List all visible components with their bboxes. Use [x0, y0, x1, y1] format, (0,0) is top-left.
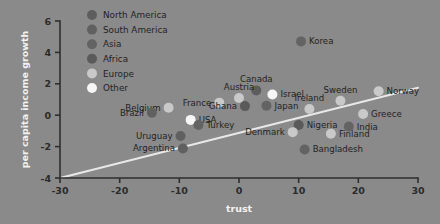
legend-swatch[interactable]	[87, 39, 97, 49]
legend-item[interactable]: Africa	[87, 54, 128, 64]
data-point[interactable]: Sweden	[323, 85, 357, 106]
data-point-marker[interactable]	[267, 89, 277, 99]
data-point-marker[interactable]	[300, 144, 310, 154]
data-point[interactable]: Uruguay	[136, 131, 186, 141]
x-tick-label: -20	[111, 185, 129, 196]
data-point[interactable]: Argentina	[133, 143, 188, 153]
data-point-marker[interactable]	[304, 104, 314, 114]
y-axis-title: per capita income growth	[19, 31, 30, 169]
data-point-marker[interactable]	[326, 129, 336, 139]
data-point-marker[interactable]	[296, 36, 306, 46]
data-point-marker[interactable]	[261, 101, 271, 111]
data-point-marker[interactable]	[164, 103, 174, 113]
legend-label: Asia	[103, 39, 121, 49]
data-point-marker[interactable]	[176, 131, 186, 141]
y-tick-label: -2	[40, 141, 51, 152]
data-point-label: Bangladesh	[313, 144, 363, 154]
data-point-label: Ghana	[209, 101, 237, 111]
data-point-label: Sweden	[323, 85, 357, 95]
data-point[interactable]: Ireland	[295, 93, 325, 114]
x-tick-label: 20	[352, 185, 366, 196]
data-point-label: Greece	[371, 109, 402, 119]
legend-swatch[interactable]	[87, 83, 97, 93]
data-point-marker[interactable]	[374, 86, 384, 96]
legend-swatch[interactable]	[87, 25, 97, 35]
data-point-label: Nigeria	[307, 120, 338, 130]
legend-item[interactable]: South America	[87, 25, 168, 35]
legend-item[interactable]: Asia	[87, 39, 121, 49]
legend-label: Other	[103, 83, 128, 93]
data-point-label: Uruguay	[136, 131, 173, 141]
data-point-marker[interactable]	[193, 120, 203, 130]
plot-area: -30-20-1001020306420-2-4 KoreaCanadaIsra…	[0, 0, 440, 224]
data-point-marker[interactable]	[240, 101, 250, 111]
data-point-label: Austria	[224, 82, 254, 92]
y-tick-label: 0	[44, 110, 51, 121]
x-tick-label: 0	[236, 185, 243, 196]
y-tick-label: 6	[44, 16, 51, 27]
y-tick-label: 4	[44, 47, 51, 58]
data-point[interactable]: Korea	[296, 36, 333, 46]
y-tick-label: 2	[44, 78, 51, 89]
data-point-label: Brazil	[120, 108, 144, 118]
data-point[interactable]: Turkey	[193, 120, 234, 130]
data-point-marker[interactable]	[358, 109, 368, 119]
legend-label: Africa	[103, 54, 128, 64]
scatter-chart: -30-20-1001020306420-2-4 KoreaCanadaIsra…	[0, 0, 440, 224]
data-point-marker[interactable]	[147, 108, 157, 118]
x-tick-label: -10	[171, 185, 189, 196]
x-tick-label: 10	[292, 185, 306, 196]
legend-item[interactable]: Other	[87, 83, 128, 93]
data-points-layer: KoreaCanadaIsraelNorwaySwedenAustriaFran…	[120, 36, 419, 154]
legend-label: South America	[103, 25, 168, 35]
data-point[interactable]: Ghana	[209, 101, 250, 111]
legend-item[interactable]: North America	[87, 10, 167, 20]
legend-label: North America	[103, 10, 167, 20]
y-tick-label: -4	[40, 173, 51, 184]
data-point[interactable]: Brazil	[120, 108, 157, 118]
data-point[interactable]: Denmark	[245, 127, 298, 137]
data-point-label: France	[183, 98, 212, 108]
data-point-label: Korea	[309, 36, 333, 46]
data-point-marker[interactable]	[288, 127, 298, 137]
data-point[interactable]: Norway	[374, 86, 420, 96]
x-tick-label: -30	[51, 185, 69, 196]
data-point-label: Ireland	[295, 93, 325, 103]
legend-item[interactable]: Europe	[87, 68, 134, 78]
data-point[interactable]: Bangladesh	[300, 144, 363, 154]
data-point-label: Turkey	[205, 120, 234, 130]
x-tick-label: 30	[411, 185, 425, 196]
data-point-label: Denmark	[245, 127, 285, 137]
data-point[interactable]: Finland	[326, 129, 370, 139]
data-point-marker[interactable]	[178, 143, 188, 153]
legend-swatch[interactable]	[87, 10, 97, 20]
x-axis-title: trust	[226, 203, 253, 214]
data-point-label: Argentina	[133, 143, 175, 153]
data-point[interactable]: Nigeria	[294, 120, 338, 130]
data-point[interactable]: Greece	[358, 109, 402, 119]
legend-swatch[interactable]	[87, 68, 97, 78]
legend-swatch[interactable]	[87, 54, 97, 64]
legend: North AmericaSouth AmericaAsiaAfricaEuro…	[87, 10, 168, 93]
legend-label: Europe	[103, 69, 134, 79]
data-point-label: Norway	[387, 86, 420, 96]
data-point[interactable]: Japan	[261, 101, 298, 111]
data-point[interactable]: Austria	[224, 82, 254, 103]
data-point-label: Finland	[339, 129, 370, 139]
data-point-marker[interactable]	[335, 96, 345, 106]
